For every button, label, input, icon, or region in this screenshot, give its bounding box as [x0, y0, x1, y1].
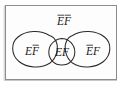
label-center-letter-e: E [54, 46, 62, 58]
label-top-letter-e: E [56, 15, 64, 27]
label-not-e-f: EF [85, 45, 101, 57]
label-top-letter-f: F [63, 15, 72, 27]
label-left-letter-e: E [24, 45, 32, 57]
label-e-and-f-text: EF [54, 46, 70, 58]
label-not-e-f-text: EF [85, 45, 101, 57]
label-e-not-f-text: EF [24, 45, 40, 57]
venn-diagram-figure: EF EF EF EF [0, 0, 127, 88]
label-center-letter-f: F [61, 46, 70, 58]
label-not-e-not-f: EF [56, 15, 72, 27]
label-e-not-f: EF [24, 45, 40, 57]
venn-diagram-canvas: EF EF EF EF [0, 0, 127, 88]
label-e-and-f: EF [54, 46, 70, 58]
label-right-letter-f: F [92, 45, 101, 57]
label-not-e-not-f-text: EF [56, 15, 72, 27]
label-left-letter-f: F [31, 45, 40, 57]
label-right-letter-e: E [85, 45, 93, 57]
